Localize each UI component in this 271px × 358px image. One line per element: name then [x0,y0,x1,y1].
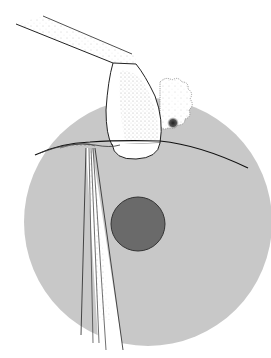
cell-dark-spot [167,117,179,129]
nucleus [111,197,165,251]
micromanipulation-figure [0,0,271,358]
